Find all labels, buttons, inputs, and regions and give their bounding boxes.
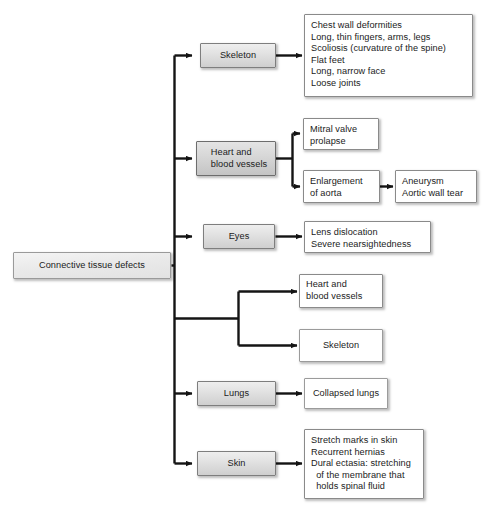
detail-box-skeleton-secondary-text: Skeleton [323, 340, 359, 352]
category-node-lungs-label: Lungs [224, 388, 249, 400]
category-node-skeleton-label: Skeleton [220, 50, 256, 62]
category-node-eyes-label: Eyes [229, 231, 250, 243]
category-node-skeleton[interactable]: Skeleton [200, 43, 276, 68]
detail-box-enlargement-of-aorta[interactable]: Enlargement of aorta [303, 170, 380, 203]
detail-box-skeleton[interactable]: Chest wall deformities Long, thin finger… [304, 14, 473, 97]
root-node-label: Connective tissue defects [39, 260, 145, 272]
category-node-heart-blood-vessels-label: Heart and blood vessels [205, 147, 267, 170]
category-node-lungs[interactable]: Lungs [197, 381, 276, 406]
detail-box-skeleton-text: Chest wall deformities Long, thin finger… [305, 15, 446, 90]
category-node-skin[interactable]: Skin [197, 451, 276, 476]
detail-box-heart-blood-vessels-secondary[interactable]: Heart and blood vessels [299, 274, 383, 308]
detail-box-aneurysm-aortic-wall-tear[interactable]: Aneurysm Aortic wall tear [395, 170, 477, 203]
detail-box-eyes-text: Lens dislocation Severe nearsightedness [305, 222, 411, 250]
detail-box-mitral-valve-prolapse-text: Mitral valve prolapse [304, 119, 357, 147]
detail-box-skin-text: Stretch marks in skin Recurrent hernias … [305, 430, 411, 493]
detail-box-collapsed-lungs[interactable]: Collapsed lungs [304, 378, 388, 409]
detail-box-enlargement-of-aorta-text: Enlargement of aorta [304, 171, 363, 199]
detail-box-heart-blood-vessels-secondary-text: Heart and blood vessels [300, 279, 362, 302]
category-node-heart-blood-vessels[interactable]: Heart and blood vessels [196, 141, 276, 176]
detail-box-mitral-valve-prolapse[interactable]: Mitral valve prolapse [303, 118, 379, 150]
detail-box-skin[interactable]: Stretch marks in skin Recurrent hernias … [304, 429, 424, 499]
detail-box-skeleton-secondary[interactable]: Skeleton [299, 329, 383, 362]
root-node-connective-tissue-defects[interactable]: Connective tissue defects [13, 252, 171, 279]
detail-box-aneurysm-aortic-wall-tear-text: Aneurysm Aortic wall tear [396, 171, 463, 199]
detail-box-eyes[interactable]: Lens dislocation Severe nearsightedness [304, 221, 431, 253]
category-node-eyes[interactable]: Eyes [203, 224, 275, 249]
detail-box-collapsed-lungs-text: Collapsed lungs [313, 388, 379, 400]
connective-tissue-defects-diagram: Connective tissue defects Skeleton Chest… [0, 0, 490, 513]
category-node-skin-label: Skin [227, 458, 245, 470]
